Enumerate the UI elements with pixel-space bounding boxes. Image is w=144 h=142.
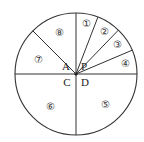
sector-label-2: ② (100, 26, 109, 37)
sector-label-8: ⑧ (55, 27, 64, 38)
center-point (74, 72, 77, 75)
sector-label-4: ④ (121, 58, 130, 69)
point-label-a: A (62, 60, 70, 72)
sector-label-5: ⑤ (101, 99, 110, 110)
point-label-c: C (63, 76, 70, 88)
sector-label-1: ① (82, 18, 91, 29)
point-label-p: P (81, 60, 87, 72)
sector-label-3: ③ (113, 39, 122, 50)
point-label-d: D (81, 76, 89, 88)
sector-label-7: ⑦ (34, 54, 43, 65)
sector-circle-diagram: ① ② ③ ④ ⑤ ⑥ ⑦ ⑧ A P C D (0, 0, 144, 142)
sector-label-6: ⑥ (46, 101, 55, 112)
